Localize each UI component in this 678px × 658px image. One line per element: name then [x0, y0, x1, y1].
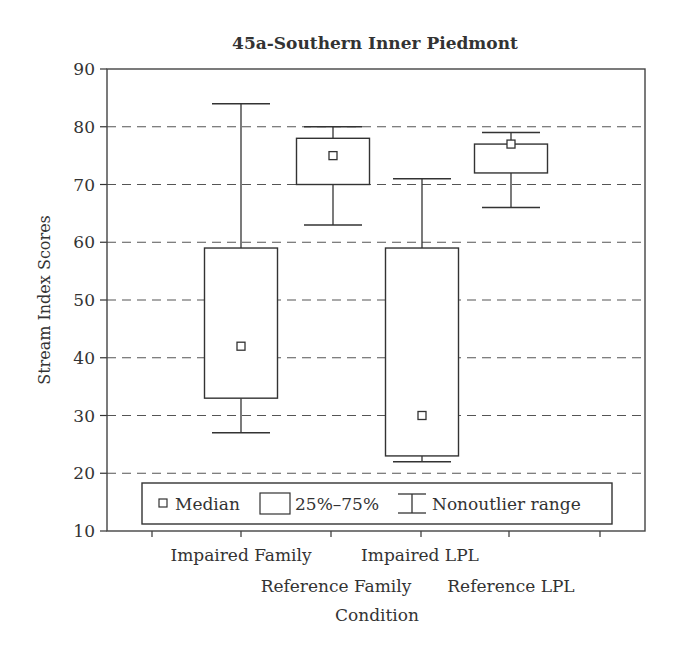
box-impaired-family [205, 104, 278, 433]
x-category-label: Reference Family [261, 576, 412, 596]
box-impaired-lpl [386, 179, 459, 462]
box-reference-family [297, 127, 370, 225]
boxes [205, 104, 548, 462]
y-tick-label: 50 [73, 290, 95, 310]
y-tick-label: 70 [73, 175, 95, 195]
y-tick-label: 90 [73, 59, 95, 79]
legend-median-swatch [159, 499, 167, 507]
iqr-box [297, 138, 370, 184]
y-tick-label: 80 [73, 117, 95, 137]
box-reference-lpl [475, 133, 548, 208]
median-marker [507, 140, 515, 148]
chart-canvas: 45a-Southern Inner Piedmont 102030405060… [0, 0, 678, 658]
legend-box-swatch [260, 493, 290, 514]
y-tick-label: 10 [73, 521, 95, 541]
legend-median-label: Median [175, 494, 240, 514]
x-category-label: Impaired LPL [361, 545, 479, 565]
y-tick-label: 20 [73, 463, 95, 483]
x-category-label: Impaired Family [170, 545, 312, 565]
y-axis: 102030405060708090 [73, 59, 107, 541]
iqr-box [386, 248, 459, 456]
iqr-box [205, 248, 278, 398]
boxplot-chart: 45a-Southern Inner Piedmont 102030405060… [0, 0, 678, 658]
chart-title: 45a-Southern Inner Piedmont [232, 33, 518, 53]
y-tick-label: 60 [73, 232, 95, 252]
legend-range-label: Nonoutlier range [432, 494, 581, 514]
y-tick-label: 30 [73, 406, 95, 426]
gridlines [107, 127, 645, 474]
median-marker [329, 152, 337, 160]
y-axis-label: Stream Index Scores [35, 215, 54, 385]
legend-iqr-label: 25%–75% [295, 494, 379, 514]
x-axis-label: Condition [335, 605, 419, 625]
median-marker [418, 412, 426, 420]
median-marker [237, 342, 245, 350]
legend: Median25%–75%Nonoutlier range [142, 483, 612, 524]
x-axis: Impaired FamilyReference FamilyImpaired … [152, 531, 600, 596]
y-tick-label: 40 [73, 348, 95, 368]
x-category-label: Reference LPL [447, 576, 574, 596]
